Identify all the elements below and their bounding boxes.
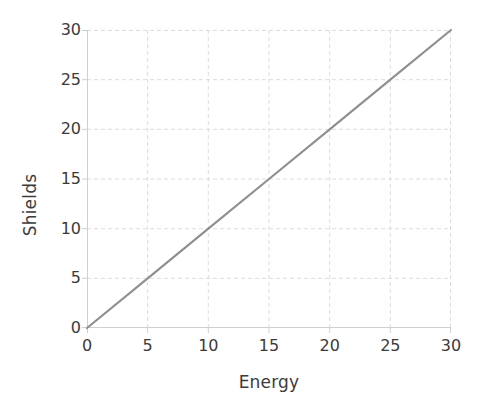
plot-svg (87, 30, 451, 328)
y-tick-label: 5 (40, 270, 81, 286)
plot-area (87, 30, 451, 328)
x-tick-label: 20 (308, 338, 352, 354)
chart-container: Shields 30 25 20 15 10 5 0 (0, 0, 487, 410)
y-axis-tick-labels: 30 25 20 15 10 5 0 (40, 30, 81, 328)
y-axis-ticks (82, 31, 87, 328)
y-tick-label: 10 (40, 221, 81, 237)
x-tick-label: 30 (429, 338, 473, 354)
y-tick-label: 25 (40, 72, 81, 88)
x-tick-label: 0 (65, 338, 109, 354)
x-axis-tick-labels: 0 5 10 15 20 25 30 (87, 338, 451, 362)
x-tick-label: 15 (247, 338, 291, 354)
x-axis-ticks (88, 328, 451, 333)
y-tick-label: 30 (40, 22, 81, 38)
x-tick-label: 25 (368, 338, 412, 354)
y-tick-label: 20 (40, 121, 81, 137)
x-tick-label: 5 (126, 338, 170, 354)
y-tick-label: 15 (40, 171, 81, 187)
x-axis-title: Energy (87, 372, 451, 392)
x-tick-label: 10 (186, 338, 230, 354)
y-tick-label: 0 (40, 320, 81, 336)
